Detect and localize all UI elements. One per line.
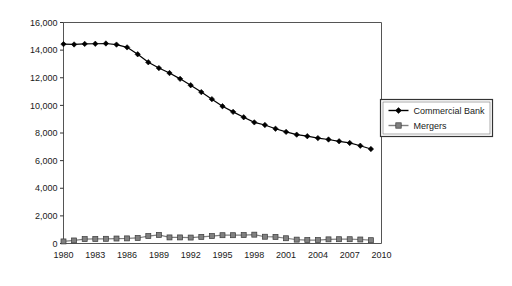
data-point-mergers [103,236,108,241]
legend-label: Commercial Bank [414,106,486,116]
x-tick-label: 1986 [117,250,137,260]
y-tick-label: 10,000 [30,101,58,111]
data-point-mergers [241,233,246,238]
legend-label: Mergers [414,121,448,131]
data-point-mergers [93,236,98,241]
y-tick-label: 2,000 [35,211,58,221]
x-tick-label: 1998 [244,250,264,260]
x-tick-label: 2004 [308,250,328,260]
line-chart: 02,0004,0006,0008,00010,00012,00014,0001… [0,0,512,286]
x-tick-label: 1980 [53,250,73,260]
data-point-mergers [337,237,342,242]
data-point-mergers [326,237,331,242]
data-point-mergers [252,232,257,237]
chart-canvas: 02,0004,0006,0008,00010,00012,00014,0001… [0,0,512,286]
x-tick-label: 1992 [181,250,201,260]
chart-legend: Commercial BankMergers [381,100,493,137]
x-tick-label: 1983 [85,250,105,260]
data-point-mergers [156,232,161,237]
x-tick-label: 2007 [340,250,360,260]
y-tick-label: 6,000 [35,156,58,166]
data-point-mergers [294,237,299,242]
data-point-mergers [315,238,320,243]
data-point-mergers [61,239,66,244]
y-tick-label: 12,000 [30,73,58,83]
data-point-mergers [82,237,87,242]
data-point-mergers [347,237,352,242]
y-tick-label: 0 [52,239,57,249]
data-point-mergers [114,236,119,241]
data-point-mergers [146,234,151,239]
data-point-mergers [125,236,130,241]
data-point-mergers [358,237,363,242]
x-tick-label: 1995 [212,250,232,260]
data-point-mergers [273,234,278,239]
data-point-mergers [209,234,214,239]
x-tick-label: 2001 [276,250,296,260]
data-point-mergers [188,235,193,240]
legend-marker-square-icon [396,123,401,128]
data-point-mergers [135,235,140,240]
data-point-mergers [178,235,183,240]
y-tick-label: 16,000 [30,18,58,28]
data-point-mergers [220,233,225,238]
x-axis-labels: 1980198319861989199219951998200120042007… [53,250,391,260]
y-tick-label: 4,000 [35,183,58,193]
data-point-mergers [262,234,267,239]
data-point-mergers [368,238,373,243]
y-tick-label: 14,000 [30,45,58,55]
y-axis-labels: 02,0004,0006,0008,00010,00012,00014,0001… [30,18,58,249]
data-point-mergers [199,234,204,239]
data-point-mergers [231,233,236,238]
data-point-mergers [305,238,310,243]
x-tick-label: 2010 [371,250,391,260]
x-tick-label: 1989 [149,250,169,260]
data-point-mergers [72,238,77,243]
data-point-mergers [284,236,289,241]
data-point-mergers [167,235,172,240]
y-tick-label: 8,000 [35,128,58,138]
